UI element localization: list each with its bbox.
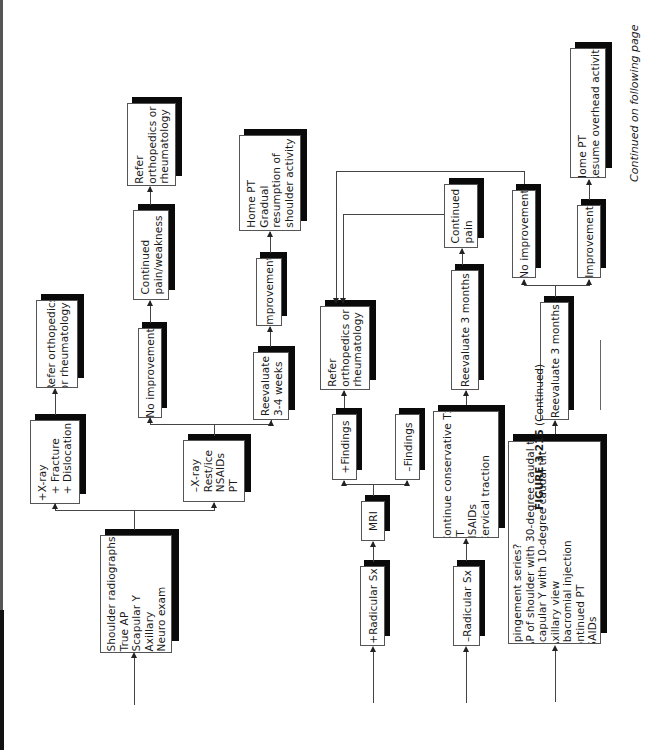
arrow-icon	[268, 420, 274, 426]
connector	[524, 285, 590, 286]
arrow-icon	[404, 480, 410, 486]
arrow-icon	[586, 179, 592, 185]
connector	[55, 510, 215, 511]
node-text: Shoulder radiographs True AP Scapular Y …	[105, 536, 168, 651]
connector	[214, 424, 215, 436]
node-impingement: Impingement series? · AP of shoulder wit…	[508, 441, 601, 644]
node-text: +X-ray + Fracture + Dislocation	[36, 423, 74, 501]
connector	[555, 647, 556, 702]
node-shoulder-radiographs: Shoulder radiographs True AP Scapular Y …	[100, 535, 172, 653]
arrow-icon	[463, 646, 469, 652]
connector	[343, 214, 444, 215]
connector	[336, 171, 337, 300]
node-text: –Findings	[401, 422, 414, 471]
node-improvement-1: Improvement	[256, 258, 282, 326]
node-text: Continued pain/weakness	[139, 215, 164, 294]
figure-label: FIGURE 3-215	[533, 429, 545, 510]
node-home-pt-resume: Home PT Resume overhead activity	[570, 48, 606, 178]
figure-suffix: (Continued)	[533, 364, 545, 426]
arrow-icon	[521, 279, 527, 285]
node-text: No improvement	[518, 190, 531, 278]
connector	[524, 171, 525, 184]
node-no-improvement-2: No improvement	[512, 190, 536, 278]
arrow-icon	[131, 652, 137, 658]
node-continued-pain: Continued pain	[444, 184, 478, 248]
node-text: Reevaluate 3-4 weeks	[259, 356, 284, 416]
arrow-icon	[552, 420, 558, 426]
connector	[373, 484, 374, 496]
connector	[344, 484, 408, 485]
node-mri: MRI	[361, 501, 385, 541]
node-text: Refer orthopedics or rheumatology	[45, 300, 70, 388]
node-text: Continued pain	[449, 189, 474, 244]
arrow-icon	[463, 390, 469, 396]
node-text: Improvement	[263, 258, 276, 326]
node-negative-xray: –X-ray Rest/ice NSAIDs PT	[183, 440, 245, 502]
node-text: Continue conservative Tx PT NSAIDs Cervi…	[441, 411, 491, 538]
node-no-improvement-1: No improvement	[138, 328, 162, 418]
arrow-icon	[147, 186, 153, 192]
node-negative-radicular: –Radicular Sx	[453, 566, 480, 646]
node-text: No improvement	[144, 328, 157, 417]
node-improvement-2: Improvement	[577, 205, 601, 278]
node-continued-pain-weakness: Continued pain/weakness	[133, 210, 169, 300]
page-edge-dark	[0, 610, 4, 750]
arrow-icon	[52, 503, 58, 509]
node-text: MRI	[367, 511, 380, 531]
node-positive-xray: +X-ray + Fracture + Dislocation	[30, 420, 80, 504]
divider	[600, 340, 601, 410]
node-text: Improvement	[583, 206, 596, 278]
connector	[343, 214, 344, 300]
connector	[373, 648, 374, 703]
node-text: Reevaluate 3 months	[459, 273, 472, 387]
node-text: –X-ray Rest/ice NSAIDs PT	[189, 450, 239, 492]
arrow-icon	[147, 300, 153, 306]
node-positive-radicular: +Radicular Sx	[360, 566, 385, 646]
arrow-icon	[463, 538, 469, 544]
node-text: Home PT Gradual resumption of shoulder a…	[245, 138, 295, 227]
arrow-icon	[211, 502, 217, 508]
connector	[555, 285, 556, 297]
arrow-icon	[267, 231, 273, 237]
continued-note: Continued on following page	[628, 24, 641, 182]
node-text: Reevaluate 3 months	[548, 304, 561, 418]
connector	[336, 171, 525, 172]
arrow-icon	[341, 480, 347, 486]
arrow-icon	[370, 646, 376, 652]
node-home-pt-gradual: Home PT Gradual resumption of shoulder a…	[239, 135, 301, 231]
arrow-icon	[52, 388, 58, 394]
node-text: +Radicular Sx	[366, 568, 379, 644]
arrow-icon	[333, 298, 339, 304]
node-text: Home PT Resume overhead activity	[576, 48, 601, 178]
arrow-icon	[267, 326, 273, 332]
connector	[134, 655, 135, 705]
node-continue-conservative: Continue conservative Tx PT NSAIDs Cervi…	[433, 411, 499, 538]
arrow-icon	[341, 390, 347, 396]
node-text: +Findings	[338, 421, 351, 474]
arrow-icon	[586, 279, 592, 285]
node-refer-top: Refer orthopedics or rheumatology	[127, 103, 176, 186]
arrow-icon	[370, 541, 376, 547]
connector	[466, 648, 467, 703]
node-reevaluate-3-4-weeks: Reevaluate 3-4 weeks	[253, 352, 289, 420]
arrow-icon	[459, 248, 465, 254]
node-refer-top-left: Refer orthopedics or rheumatology	[36, 300, 78, 388]
arrow-icon	[340, 298, 346, 304]
node-negative-findings: –Findings	[395, 414, 420, 480]
arrow-icon	[552, 645, 558, 651]
node-text: –Radicular Sx	[460, 570, 473, 642]
arrow-icon	[147, 417, 153, 423]
node-text: Refer orthopedics or rheumatology	[326, 309, 364, 386]
node-positive-findings: +Findings	[332, 414, 357, 480]
connector	[150, 424, 272, 425]
node-reevaluate-3-months-1: Reevaluate 3 months	[451, 270, 479, 390]
node-text: Impingement series? · AP of shoulder wit…	[511, 441, 599, 644]
figure-caption: FIGURE 3-215 (Continued)	[533, 364, 545, 510]
node-refer-middle: Refer orthopedics or rheumatology	[320, 306, 370, 390]
node-text: Refer orthopedics or rheumatology	[133, 106, 171, 183]
connector	[134, 510, 135, 530]
